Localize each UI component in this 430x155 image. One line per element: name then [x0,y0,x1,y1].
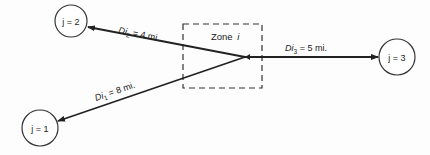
node-j3: j = 3 [379,39,415,75]
edge-to-j1: Di1 = 8 mi. [58,57,245,121]
svg-text:Di3 = 5 mi.: Di3 = 5 mi. [285,43,327,55]
svg-text:j = 2: j = 2 [61,17,79,27]
edge-to-j3: Di3 = 5 mi. [245,43,378,60]
node-j2: j = 2 [55,5,87,37]
zone-label: Zone i [211,31,240,42]
svg-text:j = 3: j = 3 [387,53,405,63]
node-j1: j = 1 [22,110,58,146]
svg-text:Di2 = 4 mi.: Di2 = 4 mi. [117,25,160,44]
zone-i-box: Zone i [183,24,262,88]
zone-distance-diagram: Zone i Di2 = 4 mi. Di1 = 8 mi. Di3 = 5 m… [0,0,430,155]
svg-text:j = 1: j = 1 [30,124,48,134]
arrow-icon [58,57,245,121]
